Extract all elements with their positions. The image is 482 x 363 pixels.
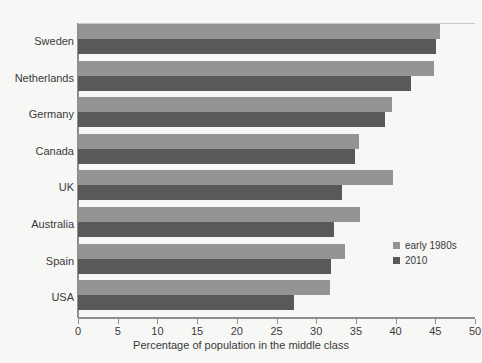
legend-label-early-1980s: early 1980s [405, 240, 457, 251]
chart-legend: early 1980s 2010 [393, 239, 457, 269]
y-axis-category-label-australia: Australia [31, 218, 74, 230]
x-axis-tick-mark [157, 319, 158, 324]
legend-item-2010: 2010 [393, 254, 457, 267]
x-axis-tick-label: 30 [310, 325, 322, 337]
legend-label-2010: 2010 [405, 255, 427, 266]
bar-germany-2010 [78, 112, 385, 127]
bar-australia-2010 [78, 222, 334, 237]
x-axis-tick-label: 0 [75, 325, 81, 337]
bar-chart: 05101520253035404550 SwedenNetherlandsGe… [0, 0, 482, 363]
x-axis-tick-mark [118, 319, 119, 324]
bar-canada-2010 [78, 149, 355, 164]
x-axis-tick-mark [356, 319, 357, 324]
y-axis-category-label-germany: Germany [29, 108, 74, 120]
y-axis-category-label-netherlands: Netherlands [15, 72, 74, 84]
x-axis-tick-label: 45 [429, 325, 441, 337]
x-axis-tick-label: 35 [350, 325, 362, 337]
bar-sweden-2010 [78, 39, 436, 54]
x-axis-tick-label: 10 [151, 325, 163, 337]
x-axis-tick-mark [78, 319, 79, 324]
bar-spain-early-1980s [78, 244, 345, 259]
bar-sweden-early-1980s [78, 24, 440, 39]
x-axis-tick-label: 15 [191, 325, 203, 337]
bar-germany-early-1980s [78, 97, 392, 112]
x-axis-tick-label: 25 [270, 325, 282, 337]
x-axis-tick-mark [396, 319, 397, 324]
x-axis-tick-mark [475, 319, 476, 324]
bar-uk-early-1980s [78, 170, 393, 185]
bar-uk-2010 [78, 185, 342, 200]
y-axis-category-label-canada: Canada [35, 145, 74, 157]
legend-swatch-icon-2010 [393, 257, 400, 264]
bar-australia-early-1980s [78, 207, 360, 222]
y-axis-category-label-spain: Spain [46, 255, 74, 267]
bar-netherlands-2010 [78, 76, 411, 91]
x-axis-tick-label: 5 [115, 325, 121, 337]
x-axis-tick-label: 40 [389, 325, 401, 337]
legend-swatch-icon-early-1980s [393, 242, 400, 249]
x-axis-tick-label: 20 [231, 325, 243, 337]
bar-usa-2010 [78, 295, 294, 310]
legend-item-early-1980s: early 1980s [393, 239, 457, 252]
x-axis-tick-mark [277, 319, 278, 324]
x-axis-tick-label: 50 [469, 325, 481, 337]
x-axis-tick-mark [197, 319, 198, 324]
bar-spain-2010 [78, 259, 331, 274]
x-axis-title: Percentage of population in the middle c… [0, 339, 482, 351]
y-axis-category-label-sweden: Sweden [34, 35, 74, 47]
bar-canada-early-1980s [78, 134, 359, 149]
bar-usa-early-1980s [78, 280, 330, 295]
x-axis-tick-mark [237, 319, 238, 324]
y-axis-category-label-usa: USA [51, 291, 74, 303]
bar-netherlands-early-1980s [78, 61, 434, 76]
x-axis-tick-mark [435, 319, 436, 324]
x-axis-tick-mark [316, 319, 317, 324]
y-axis-category-label-uk: UK [59, 181, 74, 193]
